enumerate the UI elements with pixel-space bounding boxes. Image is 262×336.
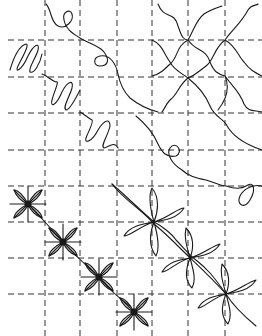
quilt-pattern-diagram	[0, 0, 262, 336]
zigzag-ribbon	[10, 44, 118, 148]
meander-loops	[46, 4, 158, 112]
